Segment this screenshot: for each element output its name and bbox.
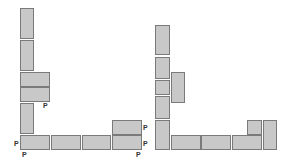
- block: [232, 135, 262, 150]
- point-label: P: [14, 140, 19, 147]
- block: [20, 135, 50, 150]
- block: [51, 135, 81, 150]
- block: [20, 87, 50, 102]
- block: [263, 120, 277, 150]
- block: [171, 72, 185, 103]
- block: [155, 96, 170, 119]
- point-label: P: [22, 151, 27, 158]
- block: [247, 120, 262, 135]
- block: [112, 135, 142, 150]
- block: [20, 72, 50, 87]
- point-label: P: [143, 140, 148, 147]
- block: [155, 57, 170, 79]
- point-label: P: [136, 151, 141, 158]
- block: [171, 135, 201, 150]
- point-label: P: [143, 124, 148, 131]
- block: [201, 135, 231, 150]
- block: [112, 120, 142, 135]
- block: [82, 135, 111, 150]
- block: [20, 40, 34, 71]
- block: [20, 8, 34, 39]
- block: [155, 25, 170, 55]
- block: [20, 103, 34, 134]
- block: [155, 80, 170, 95]
- point-label: P: [43, 102, 48, 109]
- block: [155, 120, 170, 150]
